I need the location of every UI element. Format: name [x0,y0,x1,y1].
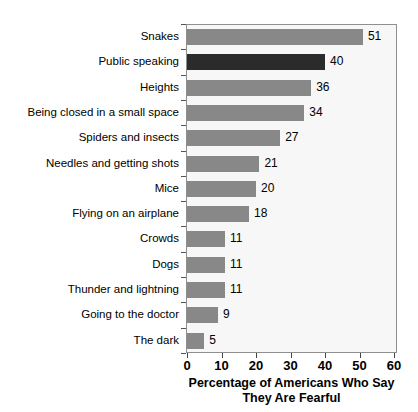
bar-value-label: 9 [223,306,230,323]
bar-row: 21 [187,152,396,177]
bar [187,282,225,298]
category-label: Heights [0,79,179,96]
bar [187,29,363,45]
y-axis-tick [181,277,186,278]
bar-row: 5 [187,329,396,354]
bar [187,307,218,323]
bar-row: 40 [187,50,396,75]
bar [187,206,249,222]
bar-row: 34 [187,101,396,126]
y-axis-tick [181,24,186,25]
category-label: Going to the doctor [0,306,179,323]
bar [187,257,225,273]
x-axis-title-line-1: Percentage of Americans Who Say [186,376,397,391]
bar-row: 9 [187,303,396,328]
y-axis-tick [181,353,186,354]
bar-chart: 514036342721201811111195 SnakesPublic sp… [0,0,418,412]
bar [187,231,225,247]
category-label: Needles and getting shots [0,155,179,172]
bar-value-label: 5 [209,332,216,349]
y-axis-tick [181,328,186,329]
x-axis-tick-label: 60 [374,358,414,374]
category-label: Dogs [0,256,179,273]
y-axis-tick [181,49,186,50]
category-label: Snakes [0,28,179,45]
bar-value-label: 11 [230,256,242,273]
bar-value-label: 18 [254,205,267,222]
bar [187,54,325,70]
x-axis-title: Percentage of Americans Who Say They Are… [186,376,397,406]
bar-value-label: 27 [285,129,298,146]
category-label: Crowds [0,230,179,247]
category-label: Being closed in a small space [0,104,179,121]
bar-value-label: 21 [264,155,277,172]
bar-row: 11 [187,278,396,303]
category-label: Mice [0,180,179,197]
y-axis-tick [181,201,186,202]
bar-row: 18 [187,202,396,227]
y-axis-tick [181,100,186,101]
bar-value-label: 11 [230,281,242,298]
bar-row: 51 [187,25,396,50]
bar-value-label: 20 [261,180,274,197]
bar [187,333,204,349]
y-axis-tick [181,252,186,253]
bar-value-label: 34 [309,104,322,121]
bar-value-label: 40 [330,53,343,70]
category-label: Public speaking [0,53,179,70]
bar [187,181,256,197]
bar-value-label: 36 [316,79,329,96]
bar-row: 20 [187,177,396,202]
bar-row: 11 [187,253,396,278]
y-axis-tick [181,125,186,126]
bar [187,156,259,172]
bar [187,80,311,96]
bar-value-label: 11 [230,230,242,247]
x-axis-title-line-2: They Are Fearful [186,391,397,406]
bar-row: 27 [187,126,396,151]
y-axis-tick [181,75,186,76]
bar [187,130,280,146]
plot-area: 514036342721201811111195 [186,24,397,353]
category-label: The dark [0,332,179,349]
bar [187,105,304,121]
category-label: Spiders and insects [0,129,179,146]
bar-value-label: 51 [368,28,381,45]
bar-row: 11 [187,227,396,252]
y-axis-tick [181,226,186,227]
category-label: Flying on an airplane [0,205,179,222]
category-label: Thunder and lightning [0,281,179,298]
bar-row: 36 [187,76,396,101]
y-axis-tick [181,176,186,177]
y-axis-tick [181,302,186,303]
y-axis-tick [181,151,186,152]
